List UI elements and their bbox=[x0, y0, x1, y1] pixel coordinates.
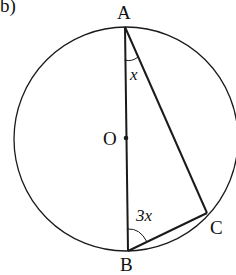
circle-diagram bbox=[0, 0, 236, 275]
angle-label-b: 3x bbox=[136, 207, 152, 224]
point-label-a: A bbox=[117, 3, 131, 22]
angle-arc-a bbox=[125, 57, 138, 61]
center-point-o bbox=[124, 136, 129, 141]
part-label: b) bbox=[0, 0, 16, 15]
angle-arc-b bbox=[128, 229, 148, 242]
point-label-o: O bbox=[103, 129, 117, 148]
chord-ac bbox=[125, 27, 207, 213]
point-label-c: C bbox=[210, 218, 223, 237]
point-label-b: B bbox=[120, 255, 133, 274]
angle-label-a: x bbox=[130, 66, 138, 83]
